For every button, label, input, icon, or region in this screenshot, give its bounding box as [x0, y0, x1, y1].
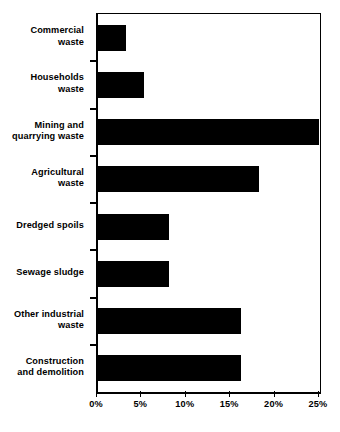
- bar: [98, 355, 241, 381]
- x-axis-tick-label: 15%: [220, 399, 239, 409]
- category-label: Other industrialwaste: [0, 309, 84, 332]
- category-label-line: Sewage sludge: [0, 267, 84, 279]
- category-label-line: Mining and: [0, 120, 84, 132]
- category-label: Householdswaste: [0, 72, 84, 95]
- category-label-line: Dredged spoils: [0, 220, 84, 232]
- x-axis-ticks: [96, 391, 320, 398]
- bar: [98, 25, 126, 51]
- category-label-line: waste: [0, 178, 84, 190]
- category-label-line: Agricultural: [0, 167, 84, 179]
- x-axis-tick: [96, 391, 97, 397]
- x-axis-tick-label: 25%: [309, 399, 328, 409]
- x-axis-tick-label: 0%: [89, 399, 103, 409]
- category-label-line: quarrying waste: [0, 131, 84, 143]
- category-label-line: waste: [0, 84, 84, 96]
- category-label-line: and demolition: [0, 367, 84, 379]
- category-label: Sewage sludge: [0, 267, 84, 279]
- bar: [98, 72, 144, 98]
- category-label-line: Households: [0, 72, 84, 84]
- category-label-line: Commercial: [0, 25, 84, 37]
- bar: [98, 261, 169, 287]
- category-label: Mining andquarrying waste: [0, 120, 84, 143]
- category-label: Dredged spoils: [0, 220, 84, 232]
- bar: [98, 308, 241, 334]
- x-axis-tick: [229, 391, 230, 397]
- category-label-line: waste: [0, 320, 84, 332]
- x-axis-tick: [318, 391, 319, 397]
- x-axis-tick: [140, 391, 141, 397]
- bar-chart: CommercialwasteHouseholdswasteMining and…: [0, 0, 340, 432]
- bar: [98, 214, 169, 240]
- x-axis-tick-label: 20%: [264, 399, 283, 409]
- x-axis-tick-label: 10%: [175, 399, 194, 409]
- x-axis-tick-labels: 0%5%10%15%20%25%: [0, 399, 340, 415]
- x-axis-tick: [274, 391, 275, 397]
- category-label-line: Other industrial: [0, 309, 84, 321]
- category-label: Constructionand demolition: [0, 356, 84, 379]
- category-axis-labels: CommercialwasteHouseholdswasteMining and…: [0, 13, 88, 391]
- bars-layer: [98, 14, 320, 392]
- category-label: Agriculturalwaste: [0, 167, 84, 190]
- category-label: Commercialwaste: [0, 25, 84, 48]
- bar: [98, 166, 259, 192]
- x-axis-tick-label: 5%: [134, 399, 148, 409]
- x-axis-tick: [185, 391, 186, 397]
- category-label-line: Construction: [0, 356, 84, 368]
- plot-area: [96, 13, 321, 394]
- y-axis-ticks: [89, 13, 96, 391]
- category-label-line: waste: [0, 37, 84, 49]
- bar: [98, 119, 319, 145]
